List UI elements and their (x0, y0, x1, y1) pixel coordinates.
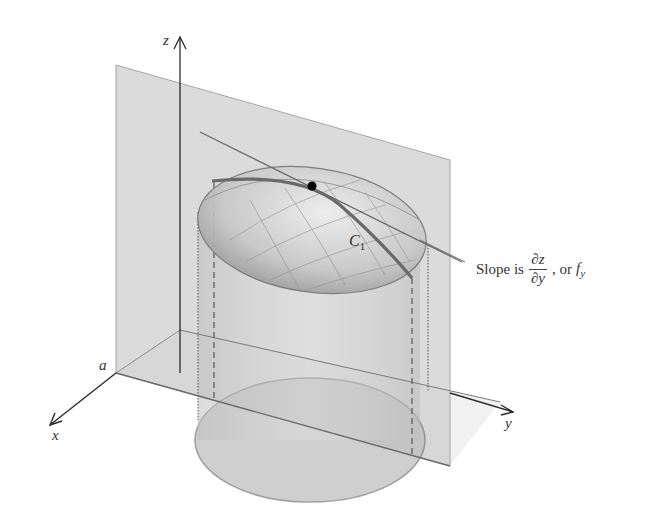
z-axis-label: z (163, 33, 169, 48)
caption-f-sub: y (580, 267, 585, 279)
caption-prefix: Slope is (476, 261, 524, 278)
y-axis-label: y (505, 416, 512, 431)
curve-c1-label: C1 (349, 233, 365, 252)
partial-derivative-fraction: ∂z ∂y (529, 252, 547, 287)
fraction-numerator: ∂z (529, 252, 546, 270)
slope-caption: Slope is ∂z ∂y , or fy (476, 252, 585, 287)
fraction-denominator: ∂y (529, 270, 547, 287)
caption-middle: , or (552, 261, 572, 278)
x-axis (50, 373, 116, 425)
curve-label-main: C (349, 232, 360, 249)
x-axis-label: x (52, 428, 59, 443)
a-label: a (99, 358, 107, 373)
caption-f: fy (576, 260, 585, 279)
tangent-point (308, 182, 317, 191)
curve-label-sub: 1 (360, 240, 366, 252)
